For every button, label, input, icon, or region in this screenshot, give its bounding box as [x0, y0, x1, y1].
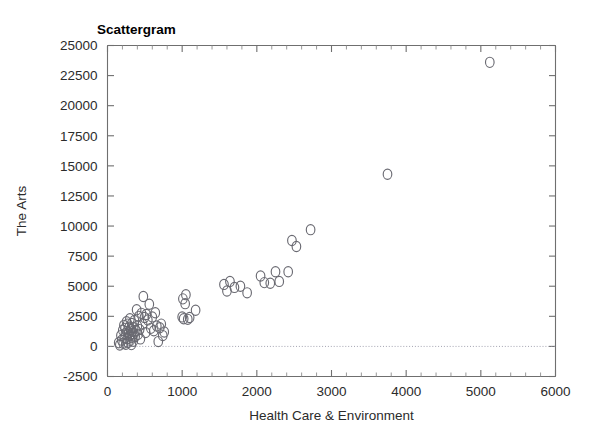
data-point — [266, 278, 275, 288]
y-tick-label: 17500 — [60, 129, 98, 144]
y-tick-label: 5000 — [67, 279, 97, 294]
x-tick-label: 2000 — [242, 384, 272, 399]
y-axis-tick-labels: -250002500500075001000012500150001750020… — [60, 38, 98, 384]
y-tick-label: 0 — [90, 339, 98, 354]
y-tick-label: 12500 — [60, 189, 98, 204]
data-point — [271, 267, 280, 277]
data-point — [230, 282, 239, 292]
data-point — [220, 279, 229, 289]
y-tick-label: 22500 — [60, 68, 98, 83]
x-tick-label: 1000 — [167, 384, 197, 399]
y-axis-title: The Arts — [14, 186, 29, 237]
plot-svg: 0100020003000400050006000 -2500025005000… — [0, 0, 598, 445]
data-point — [383, 169, 392, 179]
y-tick-label: 15000 — [60, 159, 98, 174]
x-tick-label: 6000 — [540, 384, 570, 399]
data-point — [145, 299, 154, 309]
y-tick-label: 25000 — [60, 38, 98, 53]
y-tick-label: 7500 — [67, 249, 97, 264]
x-axis-ticks — [108, 46, 556, 377]
x-tick-label: 5000 — [466, 384, 496, 399]
y-tick-label: -2500 — [63, 369, 98, 384]
data-point — [191, 305, 200, 315]
data-point — [275, 276, 284, 286]
data-point — [485, 57, 494, 67]
y-tick-label: 2500 — [67, 309, 97, 324]
y-tick-label: 20000 — [60, 98, 98, 113]
x-tick-label: 4000 — [391, 384, 421, 399]
data-point — [292, 241, 301, 251]
data-point — [226, 276, 235, 286]
x-axis-tick-labels: 0100020003000400050006000 — [104, 384, 571, 399]
chart-title: Scattergram — [97, 22, 176, 37]
scatter-plot-figure: 0100020003000400050006000 -2500025005000… — [0, 0, 598, 445]
data-point — [243, 288, 252, 298]
plot-frame — [108, 46, 556, 377]
y-tick-label: 10000 — [60, 219, 98, 234]
x-tick-label: 0 — [104, 384, 112, 399]
data-point — [288, 235, 297, 245]
data-point — [306, 225, 315, 235]
x-tick-label: 3000 — [316, 384, 346, 399]
x-axis-title: Health Care & Environment — [249, 408, 414, 423]
data-point — [154, 336, 163, 346]
data-point-group — [114, 57, 494, 350]
data-point — [284, 267, 293, 277]
y-axis-ticks — [108, 46, 556, 377]
